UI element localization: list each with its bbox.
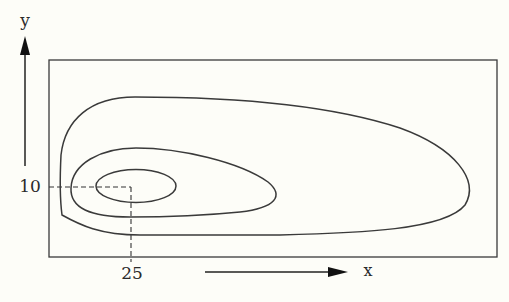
y-value-label: 10 bbox=[19, 176, 41, 196]
contour-inner bbox=[96, 170, 176, 203]
contour-diagram: y x 10 25 bbox=[0, 0, 509, 302]
y-axis-arrow-icon bbox=[20, 36, 30, 166]
plot-frame bbox=[49, 60, 497, 257]
x-axis-arrow-icon bbox=[205, 267, 348, 277]
contour-middle bbox=[71, 148, 276, 217]
x-value-label: 25 bbox=[121, 263, 143, 283]
x-axis-label: x bbox=[363, 261, 372, 280]
y-axis-label: y bbox=[19, 10, 30, 30]
diagram-svg: y x 10 25 bbox=[0, 0, 509, 302]
contour-outer bbox=[60, 97, 469, 235]
